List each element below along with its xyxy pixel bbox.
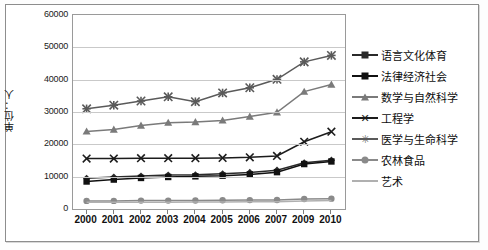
data-point-marker [328,158,334,164]
legend-item[interactable]: 语言文化体育 [352,44,478,65]
y-axis-tick-label: 30000 [22,107,68,116]
data-point-marker [83,198,89,204]
legend-label: 工程学 [381,110,414,126]
x-axis-tick-label: 2004 [183,214,205,225]
legend-label: 法律经济社会 [381,68,447,84]
data-point-marker [191,97,199,105]
series-line [87,85,332,132]
legend-marker-icon [352,175,378,187]
legend-item[interactable]: 法律经济社会 [352,65,478,86]
legend-item[interactable]: 数学与自然科学 [352,86,478,107]
data-point-marker [300,58,308,66]
data-point-marker [328,128,336,136]
legend-item[interactable]: 农林食品 [352,149,478,170]
gridline [73,47,345,48]
gridline [73,80,345,81]
legend-label: 农林食品 [381,152,425,168]
legend-label: 艺术 [381,173,403,189]
legend-marker-icon: ✳ [352,133,378,145]
x-axis-tick-label: 2009 [292,214,314,225]
gridline [73,112,345,113]
data-point-marker [111,198,117,204]
data-point-marker [301,161,307,167]
plot-area [72,14,346,210]
legend-label: 医学与生命科学 [381,131,458,147]
chart-figure: 单位：人 0100002000030000400005000060000 200… [0,0,488,250]
legend-item[interactable]: ✕工程学 [352,107,478,128]
legend-marker-icon: ✕ [352,112,378,124]
data-point-marker [137,97,145,105]
gridline [73,177,345,178]
data-point-marker [274,169,280,175]
y-axis-ticks: 0100002000030000400005000060000 [20,14,68,210]
legend-item[interactable]: 艺术 [352,170,478,191]
legend-marker-icon [352,91,378,103]
gridline [73,144,345,145]
chart-legend: 语言文化体育法律经济社会数学与自然科学✕工程学✳医学与生命科学农林食品艺术 [352,44,478,191]
x-axis-tick-label: 2006 [238,214,260,225]
data-point-marker [218,89,226,97]
series-line [87,55,332,108]
data-point-marker [164,93,172,101]
y-axis-tick-label: 40000 [22,75,68,84]
data-point-marker [246,84,254,92]
data-point-marker [83,178,89,184]
x-axis-tick-label: 2002 [129,214,151,225]
x-axis-tick-label: 2007 [265,214,287,225]
data-point-marker [110,101,118,109]
legend-marker-icon [352,154,378,166]
y-axis-tick-label: 50000 [22,42,68,51]
y-axis-tick-label: 60000 [22,10,68,19]
y-axis-tick-label: 0 [22,204,68,213]
series-line [87,161,332,181]
data-point-marker [327,51,335,59]
legend-item[interactable]: ✳医学与生命科学 [352,128,478,149]
x-axis-tick-label: 2001 [102,214,124,225]
x-axis-ticks: 2000200120022003200420052006200720092010 [72,214,346,232]
x-axis-tick-label: 2005 [210,214,232,225]
x-axis-tick-label: 2000 [74,214,96,225]
y-axis-title: 单位：人 [2,88,17,132]
x-axis-tick-label: 2010 [319,214,341,225]
legend-marker-icon [352,70,378,82]
data-point-marker [327,81,335,88]
legend-label: 数学与自然科学 [381,89,458,105]
x-axis-tick-label: 2003 [156,214,178,225]
legend-label: 语言文化体育 [381,47,447,63]
y-axis-tick-label: 20000 [22,139,68,148]
y-axis-tick-label: 10000 [22,172,68,181]
legend-marker-icon [352,49,378,61]
